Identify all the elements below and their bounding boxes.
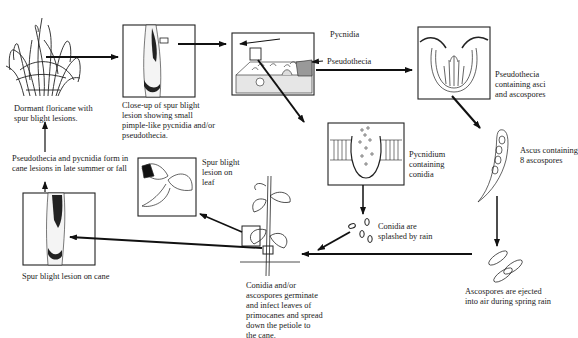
label-dormant-floricane: Dormant floricane with spur blight lesio…	[14, 104, 93, 124]
conidia-illustration	[348, 219, 372, 243]
label-ascus: Ascus containing 8 ascospores	[520, 146, 578, 166]
ascus-illustration	[478, 130, 508, 202]
label-leaf-lesion: Spur blight lesion on leaf	[202, 158, 239, 188]
pycnidium-box	[328, 123, 404, 185]
label-pycnidia: Pycnidia	[330, 30, 359, 40]
label-conidia-splashed: Conidia are splashed by rain	[378, 222, 432, 242]
label-pseudothecia: Pseudothecia	[327, 57, 371, 67]
primocane-illustration	[240, 176, 300, 276]
label-germinate-infect: Conidia and/or ascospores germinate and …	[246, 281, 323, 338]
label-pycnidium-conidia: Pycnidium containing conidia	[409, 150, 445, 180]
ascospores-illustration	[487, 248, 525, 284]
label-pseudothecia-asci: Pseudothecia containing asci and ascospo…	[495, 70, 545, 100]
cane-lesion-illustration	[47, 193, 65, 265]
label-ascospores-ejected: Ascospores are ejected into air during s…	[465, 287, 551, 307]
label-closeup-lesion: Close-up of spur blight lesion showing s…	[122, 101, 215, 141]
label-cane-lesion: Spur blight lesion on cane	[22, 272, 109, 282]
label-form-in-cane: Pseudothecia and pycnidia form in cane l…	[12, 154, 128, 174]
